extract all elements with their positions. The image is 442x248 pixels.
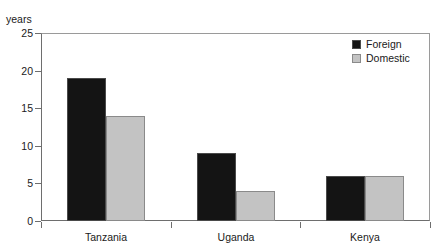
- y-tick-label-wrap: 0: [0, 216, 33, 227]
- foreign-swatch-icon: [352, 40, 361, 49]
- y-tick-label-wrap: 15: [0, 103, 33, 114]
- y-tick-label-wrap: 20: [0, 66, 33, 77]
- y-tick-label-wrap: 10: [0, 141, 33, 152]
- x-tick-label-uganda: Uganda: [171, 231, 301, 243]
- x-tick-mark: [300, 222, 301, 228]
- x-tick-label-tanzania: Tanzania: [41, 231, 171, 243]
- legend-item-foreign: Foreign: [352, 38, 428, 50]
- y-tick-label: 25: [3, 28, 33, 39]
- chart-legend: Foreign Domestic: [352, 38, 428, 66]
- y-tick-label: 10: [3, 141, 33, 152]
- bar-chart: years 0510152025 TanzaniaUgandaKenya For…: [0, 0, 442, 248]
- x-tick-mark: [41, 222, 42, 228]
- bar-kenya-domestic: [365, 176, 404, 221]
- legend-label-foreign: Foreign: [366, 39, 402, 50]
- bar-tanzania-domestic: [106, 116, 145, 221]
- y-tick-mark: [35, 146, 41, 147]
- y-tick-label-wrap: 25: [0, 28, 33, 39]
- bar-uganda-domestic: [236, 191, 275, 221]
- chart-title-remnant: [0, 0, 442, 7]
- bar-kenya-foreign: [326, 176, 365, 221]
- y-tick-label: 20: [3, 66, 33, 77]
- y-axis-unit-label: years: [6, 13, 32, 25]
- legend-label-domestic: Domestic: [366, 53, 410, 64]
- bar-tanzania-foreign: [67, 78, 106, 221]
- y-tick-mark: [35, 183, 41, 184]
- y-tick-mark: [35, 33, 41, 34]
- y-tick-label: 15: [3, 103, 33, 114]
- y-tick-label-wrap: 5: [0, 178, 33, 189]
- domestic-swatch-icon: [352, 54, 361, 63]
- bar-uganda-foreign: [197, 153, 236, 221]
- legend-item-domestic: Domestic: [352, 52, 428, 64]
- y-tick-label: 5: [3, 178, 33, 189]
- y-tick-mark: [35, 108, 41, 109]
- y-tick-mark: [35, 71, 41, 72]
- x-tick-label-kenya: Kenya: [300, 231, 430, 243]
- x-tick-mark: [430, 222, 431, 228]
- y-tick-label: 0: [3, 216, 33, 227]
- x-tick-mark: [171, 222, 172, 228]
